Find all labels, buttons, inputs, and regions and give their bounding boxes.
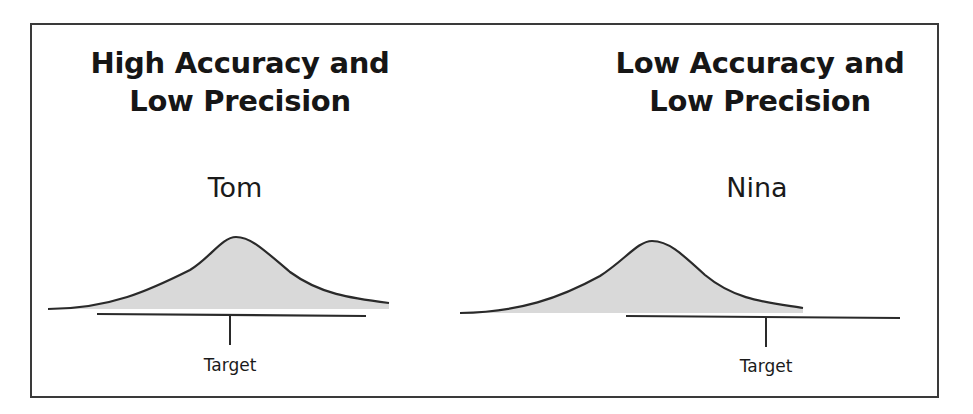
tom-curve-fill [48,237,389,309]
nina-baseline [626,316,900,318]
tom-baseline [97,314,366,316]
tom-target-label: Target [190,355,270,375]
tom-distribution [48,237,389,345]
nina-target-label: Target [726,356,806,376]
distribution-plots [0,0,973,414]
nina-distribution [460,241,900,347]
